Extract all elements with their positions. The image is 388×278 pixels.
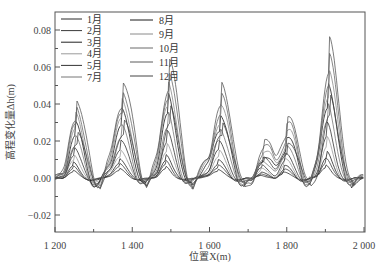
legend-label: 1月 (87, 14, 102, 25)
legend-label: 5月 (87, 60, 102, 71)
line-chart: −0.020.000.020.040.060.08 1 2001 4001 60… (0, 0, 388, 278)
legend-label: 2月 (87, 25, 102, 36)
legend: 1月2月3月4月5月7月8月9月10月11月12月 (61, 14, 179, 83)
x-tick-label: 1 800 (276, 240, 299, 251)
legend-label: 8月 (159, 15, 174, 26)
x-tick-label: 2 000 (353, 240, 376, 251)
x-tick-label: 1 200 (44, 240, 67, 251)
legend-label: 7月 (87, 72, 102, 83)
legend-label: 4月 (87, 48, 102, 59)
legend-label: 3月 (87, 37, 102, 48)
y-tick-label: 0.00 (34, 173, 52, 184)
y-tick-label: 0.06 (34, 62, 52, 73)
x-axis: 1 2001 4001 6001 8002 000 (44, 227, 376, 251)
y-tick-label: −0.02 (28, 210, 51, 221)
legend-label: 12月 (159, 71, 179, 82)
y-axis-title: 高程变化量Δh(m) (4, 84, 17, 160)
y-tick-label: 0.04 (34, 99, 52, 110)
legend-label: 11月 (159, 57, 179, 68)
legend-label: 9月 (159, 29, 174, 40)
y-tick-label: 0.02 (34, 136, 52, 147)
x-axis-title: 位置X(m) (189, 250, 231, 263)
x-tick-label: 1 400 (121, 240, 144, 251)
y-tick-label: 0.08 (34, 25, 52, 36)
legend-label: 10月 (159, 43, 179, 54)
x-tick-label: 1 600 (198, 240, 221, 251)
